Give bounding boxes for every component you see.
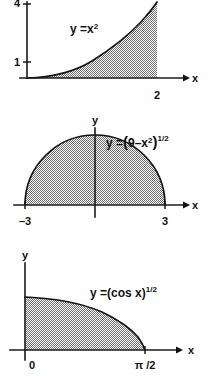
parabola-equation-base: y =x (70, 22, 94, 36)
y-tick-label-4: 4 (14, 0, 21, 9)
sqrtcos-eq-power: 1/2 (146, 285, 158, 294)
x-tick-label-pi-over-2: π /2 (135, 359, 156, 371)
chart-parabola: 4 1 x 2 y =x2 (0, 0, 210, 110)
semicircle-eq-lhs: y = (106, 136, 123, 150)
y-tick-label-1: 1 (14, 56, 20, 68)
parabola-equation-exponent: 2 (94, 22, 99, 31)
chart-semicircle-svg: y x –3 3 y =(9–x2)1/2 (0, 110, 210, 245)
x-tick-label-2: 2 (154, 89, 160, 101)
x-axis-arrow (183, 75, 190, 82)
semicircle-eq-power: 1/2 (158, 134, 170, 143)
x-tick-label-neg3: –3 (19, 215, 31, 227)
x-axis-arrow (176, 347, 183, 354)
parabola-shaded-region (27, 2, 157, 78)
sqrtcos-eq-base: y =(cos x) (90, 286, 146, 300)
parabola-equation-label: y =x2 (70, 22, 99, 36)
chart-semicircle: y x –3 3 y =(9–x2)1/2 (0, 110, 210, 245)
semicircle-eq-inner: 9–x (128, 136, 148, 150)
y-axis-label: y (22, 249, 29, 261)
y-axis-label: y (92, 114, 99, 126)
chart-parabola-svg: 4 1 x 2 y =x2 (0, 0, 210, 110)
sqrtcos-shaded-region (25, 297, 145, 350)
x-axis-label: x (192, 72, 199, 84)
x-tick-label-0: 0 (29, 359, 35, 371)
x-axis-label: x (192, 199, 199, 211)
chart-sqrt-cos-svg: y x 0 π /2 y =(cos x)1/2 (0, 245, 210, 376)
chart-sqrt-cos: y x 0 π /2 y =(cos x)1/2 (0, 245, 210, 376)
semicircle-equation-label: y =(9–x2)1/2 (106, 133, 169, 150)
x-axis-arrow (183, 202, 190, 209)
figure-stack: 4 1 x 2 y =x2 (0, 0, 210, 376)
x-tick-label-3: 3 (162, 215, 168, 227)
x-axis-label: x (188, 344, 195, 356)
sqrtcos-equation-label: y =(cos x)1/2 (90, 285, 157, 300)
